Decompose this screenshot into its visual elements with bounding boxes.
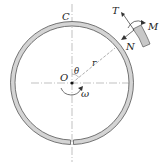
label-theta: θ xyxy=(74,66,79,76)
ring-diagram: C O θ r ω T M N xyxy=(0,0,164,164)
label-T: T xyxy=(112,5,120,16)
label-omega: ω xyxy=(81,88,89,99)
normal-arrow xyxy=(124,30,134,38)
label-M: M xyxy=(147,21,159,32)
label-C: C xyxy=(62,11,70,22)
label-O: O xyxy=(60,72,68,83)
omega-arrow xyxy=(61,88,81,95)
diagram-canvas: C O θ r ω T M N xyxy=(0,0,164,164)
center-point xyxy=(70,81,73,84)
label-N: N xyxy=(125,41,136,52)
normal-arrowhead xyxy=(121,35,127,40)
label-r: r xyxy=(92,58,97,68)
moment-arrowhead xyxy=(141,20,146,25)
